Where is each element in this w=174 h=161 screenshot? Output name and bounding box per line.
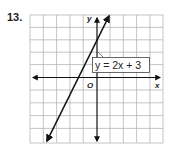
origin-label: O [87,81,94,90]
y-axis-label: y [86,14,92,23]
equation-label: y = 2x + 3 [95,59,141,71]
coordinate-graph: y = 2x + 3 y x O [0,0,174,161]
x-axis-label: x [154,81,160,90]
